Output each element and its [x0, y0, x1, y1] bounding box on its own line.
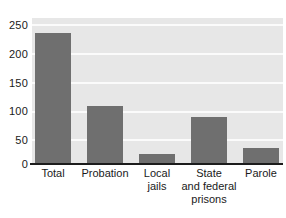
x-tick-label-line: Parole: [231, 167, 286, 180]
y-tick-label: 200: [0, 49, 28, 60]
x-tick-label-parole: Parole: [231, 167, 286, 180]
x-tick-label-probation: Probation: [75, 167, 135, 180]
bar-total: [35, 33, 71, 164]
x-tick-label-line: Total: [23, 167, 83, 180]
x-axis: Total Probation Local jails State and fe…: [32, 167, 283, 217]
y-axis: 250 200 150 100 50 0: [0, 0, 28, 218]
y-tick-label: 250: [0, 20, 28, 31]
x-tick-label-total: Total: [23, 167, 83, 180]
bar-parole: [243, 148, 279, 164]
bar-probation: [87, 106, 123, 164]
x-tick-label-line: prisons: [174, 193, 244, 206]
x-axis-line: [30, 163, 283, 165]
bars-layer: [32, 18, 283, 164]
y-tick-label: 150: [0, 78, 28, 89]
y-tick-label: 100: [0, 106, 28, 117]
bar-state-and-federal-prisons: [191, 117, 227, 164]
x-tick-label-line: and federal: [174, 180, 244, 193]
x-tick-label-line: Probation: [75, 167, 135, 180]
bar-chart: 250 200 150 100 50 0 Total Probation Loc…: [0, 0, 286, 218]
y-tick-label: 50: [0, 135, 28, 146]
